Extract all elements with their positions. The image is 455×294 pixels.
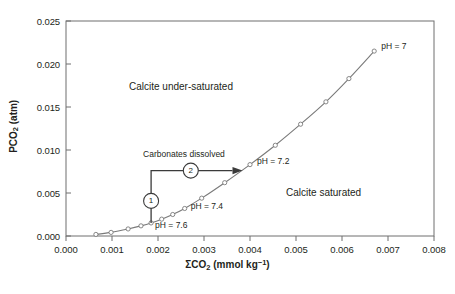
data-point-markers — [94, 49, 377, 237]
x-axis-title-mid: (mmol kg — [211, 259, 258, 270]
x-axis-title-post: ) — [266, 259, 269, 270]
data-point-marker — [94, 232, 98, 236]
y-tick-marks — [66, 21, 71, 236]
figure-container: 0.000 0.005 0.010 0.015 0.020 0.025 0.00… — [0, 0, 455, 294]
data-point-marker — [171, 212, 175, 216]
data-point-marker — [223, 181, 227, 185]
ph-label-7-2: pH = 7.2 — [257, 156, 289, 166]
process-step-2-number: 2 — [184, 166, 198, 175]
x-axis-title: ΣCO2 (mmol kg−1) — [0, 258, 455, 272]
x-tick-label-4: 0.004 — [230, 244, 270, 255]
ph-label-7-4: pH = 7.4 — [191, 201, 223, 211]
data-point-marker — [183, 206, 187, 210]
x-tick-marks — [66, 236, 434, 241]
data-point-marker — [347, 77, 351, 81]
y-axis-title-pre: PCO — [8, 131, 19, 153]
y-tick-label-1: 0.005 — [18, 188, 60, 199]
x-tick-label-8: 0.008 — [414, 244, 454, 255]
data-point-marker — [248, 163, 252, 167]
y-tick-label-0: 0.000 — [18, 231, 60, 242]
y-axis-title-sub: 2 — [11, 127, 20, 131]
x-tick-label-5: 0.005 — [276, 244, 316, 255]
region-label-calcite-saturated: Calcite saturated — [286, 187, 361, 198]
data-point-marker — [273, 143, 277, 147]
ph-label-7-6: pH = 7.6 — [155, 220, 187, 230]
data-curve — [96, 51, 374, 234]
plot-frame — [66, 21, 434, 236]
process-step-1-number: 1 — [144, 196, 158, 205]
data-point-marker — [372, 49, 376, 53]
y-tick-label-3: 0.015 — [18, 102, 60, 113]
x-tick-label-0: 0.000 — [46, 244, 86, 255]
y-axis-title: PCO2 (atm) — [8, 76, 21, 176]
x-tick-label-6: 0.006 — [322, 244, 362, 255]
process-annotation-label: Carbonates dissolved — [143, 149, 225, 159]
data-point-marker — [126, 227, 130, 231]
data-point-marker — [139, 224, 143, 228]
x-tick-label-3: 0.003 — [184, 244, 224, 255]
y-axis-title-post: (atm) — [8, 100, 19, 127]
x-tick-label-2: 0.002 — [138, 244, 178, 255]
x-tick-label-1: 0.001 — [92, 244, 132, 255]
data-point-marker — [324, 100, 328, 104]
data-point-marker — [200, 196, 204, 200]
y-tick-label-5: 0.025 — [18, 16, 60, 27]
ph-label-7: pH = 7 — [381, 41, 406, 51]
data-point-marker — [109, 230, 113, 234]
y-tick-label-2: 0.010 — [18, 145, 60, 156]
data-point-marker — [299, 122, 303, 126]
region-label-calcite-under-saturated: Calcite under-saturated — [129, 81, 233, 92]
y-tick-label-4: 0.020 — [18, 59, 60, 70]
x-axis-title-pre: ΣCO — [185, 259, 206, 270]
x-tick-label-7: 0.007 — [368, 244, 408, 255]
